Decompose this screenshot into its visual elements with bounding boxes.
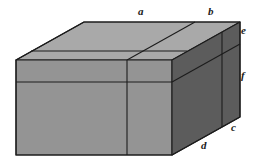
figure-canvas: a b e f c d	[0, 0, 263, 166]
label-b: b	[208, 6, 214, 17]
front-face	[16, 60, 172, 155]
label-f: f	[241, 70, 245, 81]
label-a: a	[138, 6, 144, 17]
box-illustration	[0, 0, 263, 166]
label-c: c	[231, 122, 236, 133]
label-d: d	[201, 140, 207, 151]
label-e: e	[241, 25, 246, 36]
